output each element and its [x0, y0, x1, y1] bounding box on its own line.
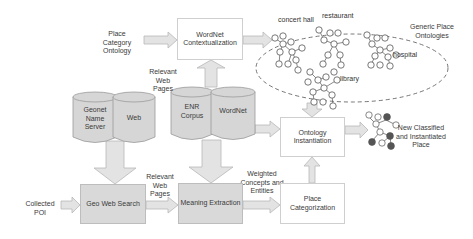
meaning-extraction-box: Meaning Extraction — [178, 183, 243, 224]
output-graph — [366, 112, 399, 150]
relevant-web-pages-top-label: Relevant Web Pages — [145, 68, 181, 94]
web-store: Web — [115, 114, 153, 123]
place-category-ontology-label: Place Category Ontology — [96, 30, 138, 56]
weighted-concepts-label: Weighted Concepts and Entities — [239, 170, 285, 196]
arrow-corpus-to-contextualization — [197, 60, 225, 87]
relevant-web-pages-bottom-label: Relevant Web Pages — [142, 173, 178, 199]
place-categorization-label: Place Categorization — [281, 195, 344, 212]
ontology-instantiation-box: Ontology Instantiation — [280, 117, 345, 157]
arrow-ontologies-to-instantiation — [302, 103, 322, 117]
generic-place-ontologies-label: Generic Place Ontologies — [404, 23, 460, 40]
collected-poi-label: Collected POI — [22, 200, 58, 217]
ontology-instantiation-label: Ontology Instantiation — [281, 129, 344, 146]
place-categorization-box: Place Categorization — [280, 183, 345, 224]
tree-label-hospital: hospital — [393, 51, 417, 58]
arrow-stores-to-meaning — [189, 140, 233, 183]
geo-web-search-label: Geo Web Search — [86, 200, 140, 209]
wordnet-contextualization-label: WordNet Contextualization — [178, 31, 242, 48]
tree-restaurant — [316, 27, 349, 68]
wordnet-store: WordNet — [214, 107, 252, 116]
tree-label-restaurant: restaurant — [322, 12, 354, 19]
arrow-ontology-to-contextualization — [144, 32, 177, 48]
arrow-stores-to-geosearch — [94, 141, 136, 184]
tree-concert-hall — [272, 33, 305, 73]
geo-web-search-box: Geo Web Search — [80, 184, 146, 224]
meaning-extraction-label: Meaning Extraction — [181, 199, 241, 208]
arrow-wordnet-to-instantiation — [255, 121, 280, 137]
arrow-meaning-to-categorization — [243, 197, 280, 213]
tree-label-concert-hall: concert hall — [278, 16, 314, 23]
tree-label-library: library — [340, 75, 359, 82]
ontology-trees — [272, 27, 399, 109]
arrow-categorization-to-instantiation — [304, 157, 320, 183]
enr-corpus-store: ENR Corpus — [174, 103, 210, 120]
arrow-instantiation-to-output — [345, 122, 368, 138]
new-place-output-label: New Classified and Instantiated Place — [396, 124, 446, 150]
arrow-geosearch-to-meaning — [146, 197, 178, 213]
wordnet-contextualization-box: WordNet Contextualization — [177, 18, 243, 60]
geonet-name-server-store: Geonet Name Server — [75, 106, 115, 132]
arrow-poi-to-geosearch — [61, 197, 80, 213]
arrow-contextualization-to-ontologies — [243, 32, 272, 48]
